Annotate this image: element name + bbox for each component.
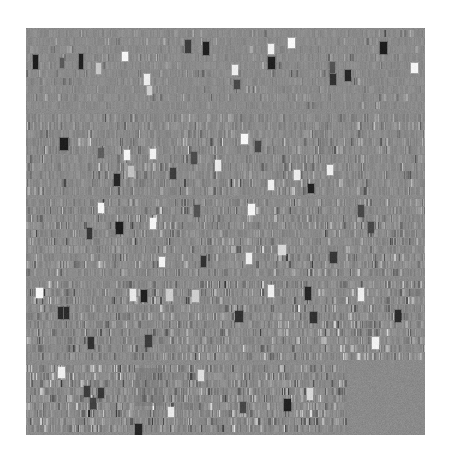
heatmap-canvas: [26, 28, 425, 435]
figure-container: [0, 0, 451, 458]
heatmap-plot-area: [26, 28, 425, 435]
